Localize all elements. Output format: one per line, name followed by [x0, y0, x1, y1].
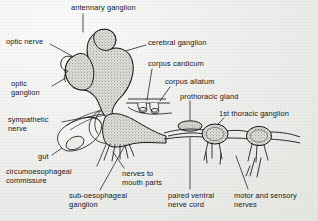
label-paired-ventral-nerve-cord: paired ventral nerve cord — [168, 192, 232, 209]
label-gut: gut — [38, 153, 58, 162]
label-sympathetic-nerve: sympathetic nerve — [8, 116, 66, 133]
label-prothoracic-gland: prothoracic gland — [180, 93, 256, 102]
second-thoracic-ganglion-body — [247, 126, 272, 145]
label-motor-and-sensory-nerves: motor and sensory nerves — [234, 192, 316, 209]
sub-oesophageal-ganglion-body — [103, 114, 166, 147]
optic-ganglion-lobe — [65, 53, 94, 90]
label-corpus-cardicum: corpus cardicum — [148, 60, 218, 69]
label-circumoesophageal-commissure: circumoesophageal commissure — [6, 168, 106, 185]
label-nerves-to-mouth-parts: nerves to mouth parts — [122, 170, 180, 187]
label-corpus-allatum: corpus allatum — [165, 78, 229, 87]
label-optic-ganglion: optic ganglion — [11, 80, 57, 97]
first-thoracic-ganglion-body — [202, 124, 228, 144]
diagram-canvas: antennary ganglion optic nerve cerebral … — [0, 0, 318, 221]
label-cerebral-ganglion: cerebral ganglion — [148, 39, 222, 48]
motor-sensory-nerve-pair — [246, 144, 268, 177]
label-first-thoracic-ganglion: 1st thoracic ganglion — [219, 110, 311, 119]
antennary-ganglion-lobe — [94, 29, 116, 50]
label-optic-nerve: optic nerve — [6, 38, 58, 47]
first-thoracic-nerves — [204, 142, 222, 164]
label-sub-oesophageal-ganglion: sub-oesophageal ganglion — [69, 192, 151, 209]
label-antennary-ganglion: antennary ganglion — [71, 4, 151, 13]
